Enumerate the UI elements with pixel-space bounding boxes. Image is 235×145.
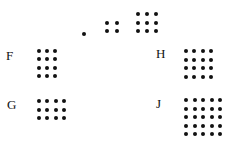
dot xyxy=(193,107,197,111)
option-h-label: H xyxy=(156,47,165,60)
dot xyxy=(184,124,188,128)
dot xyxy=(201,107,205,111)
dot xyxy=(136,21,140,25)
dot xyxy=(37,74,41,78)
dot xyxy=(209,49,213,53)
dot xyxy=(62,108,66,112)
dot xyxy=(37,49,41,53)
dot xyxy=(218,98,222,102)
dot xyxy=(145,21,149,25)
dot xyxy=(45,74,49,78)
dot xyxy=(193,132,197,136)
option-f-label: F xyxy=(6,49,13,62)
dot xyxy=(145,12,149,16)
dot xyxy=(201,58,205,62)
dot xyxy=(209,58,213,62)
dot xyxy=(210,115,214,119)
dot xyxy=(45,57,49,61)
dot xyxy=(145,29,149,33)
dot xyxy=(82,32,86,36)
dot xyxy=(54,108,58,112)
dot xyxy=(37,57,41,61)
dot xyxy=(154,12,158,16)
dot xyxy=(45,66,49,70)
dot-pattern-puzzle: { "puzzle": { "sequence": [ { "name": "t… xyxy=(0,0,235,145)
dot xyxy=(184,75,188,79)
option-h-dot-grid[interactable] xyxy=(184,49,213,79)
dot xyxy=(193,115,197,119)
dot xyxy=(192,58,196,62)
dot xyxy=(201,49,205,53)
dot xyxy=(209,75,213,79)
dot xyxy=(54,116,58,120)
option-j-label: J xyxy=(156,97,161,110)
dot xyxy=(115,21,119,25)
dot xyxy=(136,29,140,33)
dot xyxy=(210,124,214,128)
dot xyxy=(154,21,158,25)
dot xyxy=(184,107,188,111)
dot xyxy=(218,132,222,136)
dot xyxy=(201,75,205,79)
option-g-dot-grid[interactable] xyxy=(37,99,66,120)
dot xyxy=(192,49,196,53)
dot xyxy=(62,116,66,120)
dot xyxy=(218,124,222,128)
dot xyxy=(37,108,41,112)
dot xyxy=(201,98,205,102)
dot xyxy=(53,66,57,70)
dot xyxy=(105,29,109,33)
dot xyxy=(62,99,66,103)
dot xyxy=(201,66,205,70)
dot xyxy=(37,66,41,70)
sequence-term-1 xyxy=(82,32,86,36)
dot xyxy=(115,29,119,33)
dot xyxy=(45,108,49,112)
dot xyxy=(136,12,140,16)
dot xyxy=(192,66,196,70)
dot xyxy=(210,98,214,102)
dot xyxy=(218,115,222,119)
dot xyxy=(184,115,188,119)
dot xyxy=(154,29,158,33)
dot xyxy=(53,74,57,78)
dot xyxy=(201,124,205,128)
option-f-dot-grid[interactable] xyxy=(37,49,57,78)
dot xyxy=(184,49,188,53)
dot xyxy=(210,132,214,136)
dot xyxy=(45,116,49,120)
dot xyxy=(37,116,41,120)
dot xyxy=(53,49,57,53)
dot xyxy=(45,49,49,53)
dot xyxy=(193,98,197,102)
dot xyxy=(192,75,196,79)
dot xyxy=(193,124,197,128)
dot xyxy=(184,98,188,102)
dot xyxy=(105,21,109,25)
dot xyxy=(201,132,205,136)
dot xyxy=(53,57,57,61)
dot xyxy=(209,66,213,70)
dot xyxy=(184,66,188,70)
dot xyxy=(184,58,188,62)
option-g-label: G xyxy=(7,98,16,111)
option-j-dot-grid[interactable] xyxy=(184,98,222,136)
sequence-term-2 xyxy=(105,21,119,33)
dot xyxy=(54,99,58,103)
dot xyxy=(210,107,214,111)
dot xyxy=(184,132,188,136)
dot xyxy=(37,99,41,103)
dot xyxy=(218,107,222,111)
dot xyxy=(201,115,205,119)
dot xyxy=(45,99,49,103)
sequence-term-3 xyxy=(136,12,158,33)
